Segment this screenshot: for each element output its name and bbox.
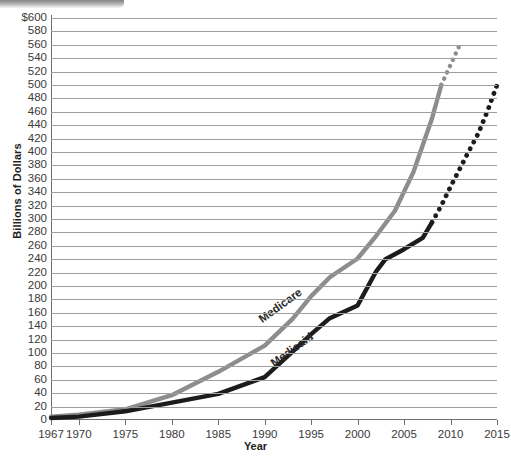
y-axis-tick-label: 80	[0, 361, 47, 373]
gridline	[51, 340, 497, 341]
x-axis-tick	[51, 420, 52, 425]
y-axis-tick-label: 140	[0, 320, 47, 332]
medicaid-projected-line	[432, 85, 497, 222]
gridline	[51, 139, 497, 140]
medicaid-solid-line	[51, 222, 432, 418]
gridline	[51, 125, 497, 126]
gridline	[51, 98, 497, 99]
x-axis-tick	[497, 420, 498, 425]
gridline	[51, 165, 497, 166]
y-axis-tick-label: 300	[0, 213, 47, 225]
y-axis-tick-label: $600	[0, 12, 47, 24]
y-axis-tick-label: 560	[0, 39, 47, 51]
y-axis-tick-label: 120	[0, 334, 47, 346]
medicare-medicaid-spending-chart: Billions of Dollars $6005805605405205004…	[0, 0, 511, 468]
y-axis-tick-label: 420	[0, 133, 47, 145]
y-axis-tick-label: 20	[0, 401, 47, 413]
y-axis-tick-label: 580	[0, 26, 47, 38]
medicare-projected-line	[441, 45, 460, 85]
gridline	[51, 45, 497, 46]
x-axis-tick	[265, 420, 266, 425]
gridline	[51, 152, 497, 153]
gridline	[51, 85, 497, 86]
x-axis-tick-label: 2015	[469, 428, 511, 440]
gridline	[51, 393, 497, 394]
x-axis-tick	[79, 420, 80, 425]
y-axis-tick-label: 480	[0, 93, 47, 105]
y-axis-tick-label: 340	[0, 186, 47, 198]
gridline	[51, 326, 497, 327]
y-axis-tick-label: 260	[0, 240, 47, 252]
y-axis-tick-label: 0	[0, 414, 47, 426]
x-axis-tick	[125, 420, 126, 425]
gridline	[51, 353, 497, 354]
y-axis-tick-label: 360	[0, 173, 47, 185]
y-axis-tick-label: 460	[0, 106, 47, 118]
gridline	[51, 407, 497, 408]
x-axis-tick	[451, 420, 452, 425]
gridline	[51, 72, 497, 73]
y-axis-tick-label: 240	[0, 253, 47, 265]
y-axis-tick-label: 400	[0, 146, 47, 158]
gridline	[51, 366, 497, 367]
y-axis-tick-label: 100	[0, 347, 47, 359]
y-axis-tick-label: 180	[0, 294, 47, 306]
gridline	[51, 192, 497, 193]
gridline	[51, 286, 497, 287]
gridline	[51, 299, 497, 300]
gridline	[51, 259, 497, 260]
gridline	[51, 246, 497, 247]
y-axis-tick-label: 200	[0, 280, 47, 292]
y-axis-tick-label: 440	[0, 119, 47, 131]
y-axis-tick-label: 280	[0, 227, 47, 239]
x-axis-tick	[358, 420, 359, 425]
gridline	[51, 273, 497, 274]
x-axis-tick	[218, 420, 219, 425]
x-axis-title: Year	[0, 440, 511, 452]
x-axis-tick	[311, 420, 312, 425]
y-axis-tick-label: 60	[0, 374, 47, 386]
y-axis-tick-label: 540	[0, 52, 47, 64]
gridline	[51, 31, 497, 32]
y-axis-tick-label: 520	[0, 66, 47, 78]
y-axis-tick-label: 40	[0, 387, 47, 399]
y-axis-tick-label: 160	[0, 307, 47, 319]
gridline	[51, 232, 497, 233]
y-axis-tick-label: 220	[0, 267, 47, 279]
gridline	[51, 179, 497, 180]
gridline	[51, 206, 497, 207]
x-axis-tick	[172, 420, 173, 425]
gridline	[51, 112, 497, 113]
x-axis-tick	[404, 420, 405, 425]
gridline	[51, 58, 497, 59]
gridline	[51, 219, 497, 220]
y-axis-tick-label: 380	[0, 160, 47, 172]
plot-area: Medicare Medicaid 1967197019751980198519…	[51, 18, 497, 420]
gridline	[51, 313, 497, 314]
y-axis-tick-labels: $600580560540520500480460440420400380360…	[0, 0, 47, 468]
gridline	[51, 18, 497, 19]
gridline	[51, 380, 497, 381]
y-axis-tick-label: 320	[0, 200, 47, 212]
y-axis-tick-label: 500	[0, 79, 47, 91]
